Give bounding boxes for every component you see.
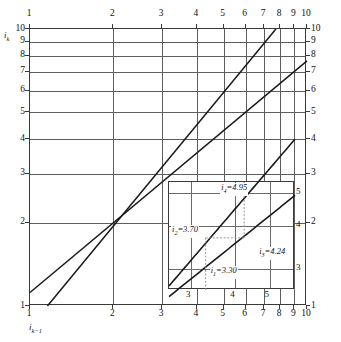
bottom-tick-10: 10 bbox=[296, 309, 316, 319]
inset-x-tick-5: 5 bbox=[265, 289, 270, 299]
right-tick-4: 4 bbox=[311, 134, 333, 144]
left-tick-3: 3 bbox=[4, 168, 25, 178]
inset-x-tick-4: 4 bbox=[230, 289, 235, 299]
plot-area: i2=3.70 i4=4.95 i3=4.24 i1=3.30 bbox=[29, 28, 306, 305]
left-tick-5: 5 bbox=[4, 107, 25, 117]
top-tick-5: 5 bbox=[213, 9, 233, 19]
left-tick-9: 9 bbox=[4, 36, 25, 46]
right-tick-3: 3 bbox=[311, 168, 333, 178]
inset-y-tick-5: 5 bbox=[296, 186, 301, 196]
right-tick-10: 10 bbox=[311, 24, 333, 34]
right-tick-7: 7 bbox=[311, 66, 333, 76]
top-tick-6: 6 bbox=[235, 9, 255, 19]
top-tick-1: 1 bbox=[19, 9, 39, 19]
inset-label-i1: i1=3.30 bbox=[210, 266, 238, 279]
inset-y-tick-4: 4 bbox=[296, 219, 301, 229]
inset-label-i3: i3=4.24 bbox=[258, 247, 286, 260]
bottom-tick-4: 4 bbox=[186, 309, 206, 319]
right-tick-6: 6 bbox=[311, 85, 333, 95]
left-tick-7: 7 bbox=[4, 66, 25, 76]
bottom-tick-6: 6 bbox=[235, 309, 255, 319]
left-tick-6: 6 bbox=[4, 85, 25, 95]
bottom-tick-3: 3 bbox=[151, 309, 171, 319]
tickmark bbox=[25, 305, 29, 306]
top-tick-4: 4 bbox=[186, 9, 206, 19]
right-tick-8: 8 bbox=[311, 50, 333, 60]
top-tick-2: 2 bbox=[102, 9, 122, 19]
left-tick-4: 4 bbox=[4, 134, 25, 144]
x-axis-label: ik−1 bbox=[29, 322, 42, 334]
inset-x-tick-3: 3 bbox=[186, 289, 191, 299]
inset-label-i4: i4=4.95 bbox=[220, 183, 248, 196]
right-tick-2: 2 bbox=[311, 217, 333, 227]
inset-label-i2: i2=3.70 bbox=[171, 225, 199, 238]
right-tick-1: 1 bbox=[311, 301, 333, 311]
inset-y-tick-3: 3 bbox=[296, 262, 301, 272]
top-tick-10: 10 bbox=[296, 9, 316, 19]
inset-chart: i2=3.70 i4=4.95 i3=4.24 i1=3.30 bbox=[168, 181, 294, 289]
left-tick-8: 8 bbox=[4, 50, 25, 60]
bottom-tick-1: 1 bbox=[19, 309, 39, 319]
top-tick-3: 3 bbox=[151, 9, 171, 19]
bottom-tick-2: 2 bbox=[102, 309, 122, 319]
bottom-tick-5: 5 bbox=[213, 309, 233, 319]
right-tick-5: 5 bbox=[311, 107, 333, 117]
left-tick-1: 1 bbox=[4, 301, 25, 311]
chart-root: ik ik−1 12345678910 12345678910 12345678… bbox=[0, 0, 341, 342]
left-tick-2: 2 bbox=[4, 217, 25, 227]
left-tick-10: 10 bbox=[4, 24, 25, 34]
right-tick-9: 9 bbox=[311, 36, 333, 46]
